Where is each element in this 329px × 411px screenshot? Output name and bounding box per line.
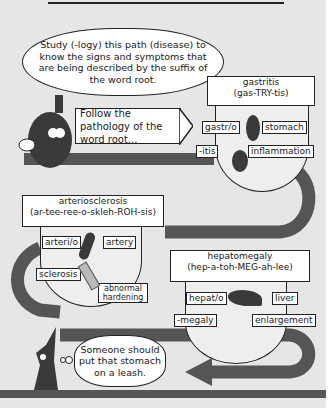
hepatomegaly-pronunciation: (hep-a-toh-MEG-ah-lee) — [171, 262, 309, 273]
sclerosis-part: sclerosis — [36, 268, 81, 281]
dog-character-icon — [18, 325, 63, 393]
arteriosclerosis-title-box: arteriosclerosis (ar-tee-ree-o-skleh-ROH… — [22, 195, 164, 227]
dog-thought-bubble: Someone should put that stomach on a lea… — [74, 335, 166, 387]
gastritis-title-box: gastritis (gas-TRY-tis) — [207, 76, 315, 106]
stomach-icon — [246, 115, 260, 141]
arteriosclerosis-pronunciation: (ar-tee-ree-o-skleh-ROH-sis) — [23, 207, 163, 218]
liver-meaning: liver — [272, 292, 298, 305]
hepat-o-part: hepat/o — [186, 292, 227, 305]
itis-part: -itis — [196, 145, 218, 158]
gastritis-pronunciation: (gas-TRY-tis) — [208, 88, 314, 99]
abnormal-hardening-meaning: abnormal hardening — [98, 283, 148, 303]
gastr-o-part: gastr/o — [202, 121, 240, 134]
gastritis-term: gastritis — [208, 77, 314, 88]
intro-speech-bubble: Study (-logy) this path (disease) to kno… — [22, 28, 224, 96]
arteri-o-part: arteri/o — [42, 236, 81, 249]
inflamed-stomach-icon — [232, 150, 248, 172]
comic-panel: Study (-logy) this path (disease) to kno… — [0, 0, 326, 408]
stomach-meaning: stomach — [262, 121, 307, 134]
signpost-arrow-tip — [179, 108, 193, 145]
signpost: Follow the pathology of the word root... — [75, 108, 181, 144]
arteriosclerosis-term: arteriosclerosis — [23, 196, 163, 207]
gastritis-stomach-character-icon — [15, 95, 75, 175]
thought-dot-large — [65, 356, 73, 364]
hepatomegaly-term: hepatomegaly — [171, 251, 309, 262]
enlargement-meaning: enlargement — [252, 314, 316, 327]
thought-text: Someone should put that stomach on a lea… — [79, 344, 161, 379]
megaly-part: -megaly — [174, 314, 217, 327]
inflammation-meaning: inflammation — [248, 145, 314, 158]
artery-meaning: artery — [103, 236, 136, 249]
signpost-text: Follow the pathology of the word root... — [80, 107, 180, 146]
intro-text: Study (-logy) this path (disease) to kno… — [38, 39, 208, 85]
hepatomegaly-title-box: hepatomegaly (hep-a-toh-MEG-ah-lee) — [170, 250, 310, 282]
